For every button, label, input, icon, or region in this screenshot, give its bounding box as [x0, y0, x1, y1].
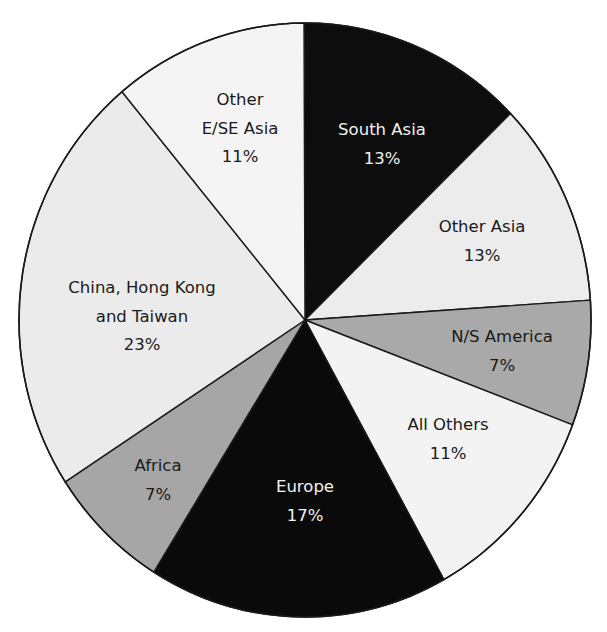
slice-percent-label: 11%: [430, 444, 467, 463]
slice-name-label: Other: [217, 90, 264, 109]
slice-percent-label: 11%: [222, 147, 259, 166]
slice-percent-label: 7%: [145, 485, 171, 504]
slice-name-label: All Others: [407, 415, 488, 434]
slice-percent-label: 7%: [489, 356, 515, 375]
slice-percent-label: 13%: [364, 149, 401, 168]
slice-percent-label: 17%: [287, 506, 324, 525]
pie-chart: South Asia13%Other Asia13%N/S America7%A…: [0, 0, 607, 632]
slice-name-label: Africa: [134, 456, 181, 475]
slice-name-label: Europe: [276, 477, 334, 496]
slice-name-label: South Asia: [338, 120, 426, 139]
slice-name-label: China, Hong Kong: [68, 278, 215, 297]
slice-percent-label: 13%: [464, 246, 501, 265]
slice-name-label: Other Asia: [439, 217, 526, 236]
slice-name-label: E/SE Asia: [202, 119, 279, 138]
slice-percent-label: 23%: [124, 335, 161, 354]
slice-name-label: N/S America: [451, 327, 553, 346]
slice-name-label: and Taiwan: [96, 307, 188, 326]
